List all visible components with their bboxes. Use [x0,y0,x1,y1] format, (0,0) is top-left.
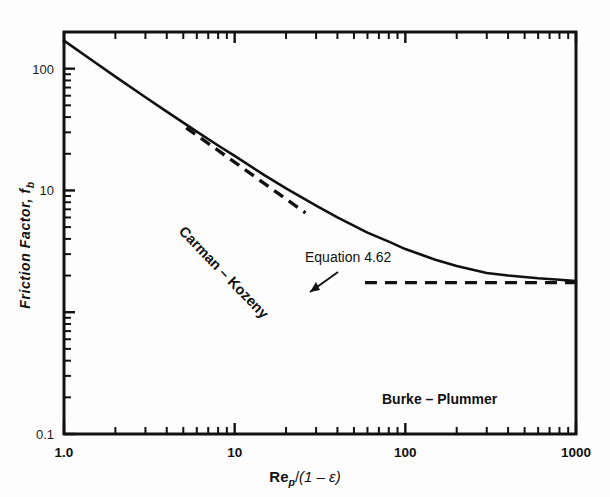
friction-factor-chart-figure: 1.0101001000 100100.1 Friction Factor, f… [0,0,610,497]
carman-kozeny-line [186,128,305,213]
carman-kozeny-label: Carman – Kozeny [176,223,272,322]
y-axis-title: Friction Factor, fb [17,181,36,309]
burke-plummer-label: Burke – Plummer [382,391,498,407]
x-axis-ticks [64,32,576,434]
equation-462-label: Equation 4.62 [305,249,392,265]
x-tick-label: 10 [227,445,242,460]
y-tick-label: 10 [40,183,54,198]
friction-factor-chart-svg: 1.0101001000 100100.1 Friction Factor, f… [0,0,610,497]
equation-leader-arrow [310,272,338,292]
carman-kozeny-label-group: Carman – Kozeny [176,223,272,322]
x-axis-title: Rep/(1 – ε) [269,468,340,488]
x-tick-labels: 1.0101001000 [55,445,591,460]
y-axis-title-main: Friction Factor, f [17,188,33,309]
x-tick-label: 1000 [561,445,591,460]
x-axis-title-re: Re [269,468,288,485]
y-tick-labels: 100100.1 [32,62,54,442]
x-tick-label: 1.0 [55,445,74,460]
equation-462-curve [64,41,576,282]
y-axis-ticks [64,32,75,434]
y-axis-title-sub: b [24,181,36,188]
svg-text:Friction Factor, fb: Friction Factor, fb [17,181,36,309]
plot-frame [64,32,576,434]
x-tick-label: 100 [394,445,417,460]
x-axis-title-paren: (1 – ε) [299,468,341,485]
y-tick-label: 0.1 [36,427,54,442]
y-tick-label: 100 [32,62,54,77]
svg-text:Rep/(1 – ε): Rep/(1 – ε) [269,468,340,488]
